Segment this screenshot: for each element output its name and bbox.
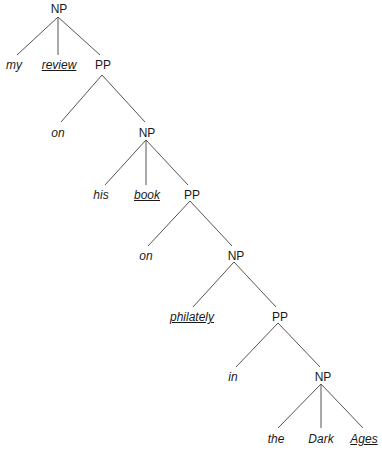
leaf-w_dark: Dark	[308, 432, 333, 446]
syntax-tree: NPmyreviewPPonNPhisbookPPonNPphilatelyPP…	[0, 0, 382, 453]
node-pp2: PP	[184, 188, 200, 202]
edge-np2-w_his	[105, 140, 146, 185]
leaf-w_his: his	[93, 188, 108, 202]
leaf-w_my: my	[6, 58, 22, 72]
edge-np2-pp2	[146, 140, 188, 185]
edge-pp1-np2	[102, 75, 145, 122]
edge-pp2-np3	[190, 201, 232, 246]
leaf-w_the: the	[268, 432, 285, 446]
leaf-w_in: in	[228, 370, 237, 384]
leaf-w_on2: on	[139, 249, 152, 263]
edge-pp3-np4	[278, 323, 320, 367]
edge-np3-w_philately	[193, 262, 234, 307]
edge-pp2-w_on2	[148, 201, 190, 246]
node-np2: NP	[139, 126, 156, 140]
edge-np1-pp1	[58, 17, 100, 55]
node-np1: NP	[51, 2, 68, 16]
node-np3: NP	[228, 249, 245, 263]
node-pp3: PP	[272, 310, 288, 324]
edge-pp3-w_in	[236, 323, 278, 367]
edge-np4-w_the	[278, 384, 321, 428]
edge-np1-w_my	[17, 17, 58, 55]
edge-np4-w_ages	[321, 384, 363, 428]
node-pp1: PP	[95, 58, 111, 72]
leaf-w_review: review	[42, 58, 77, 72]
leaf-w_book: book	[134, 188, 160, 202]
edge-np3-pp3	[234, 262, 276, 307]
leaf-w_ages: Ages	[350, 432, 377, 446]
leaf-w_philately: philately	[170, 310, 214, 324]
edge-pp1-w_on1	[61, 75, 102, 122]
node-np4: NP	[315, 370, 332, 384]
leaf-w_on1: on	[51, 126, 64, 140]
